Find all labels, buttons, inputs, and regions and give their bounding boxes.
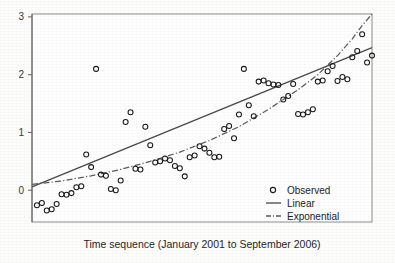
y-tick-label: 1 — [18, 127, 24, 138]
y-tick-label: 3 — [18, 11, 24, 22]
legend-label-observed: Observed — [287, 185, 330, 196]
y-tick-label: 0 — [18, 185, 24, 196]
y-axis-ticks: 0123 — [18, 11, 32, 195]
figure-container: 0123 Observed Linear Exponential Time se… — [0, 0, 395, 263]
x-axis-label: Time sequence (January 2001 to September… — [83, 238, 320, 250]
legend-label-exponential: Exponential — [287, 211, 339, 222]
y-tick-label: 2 — [18, 69, 24, 80]
legend-label-linear: Linear — [287, 198, 315, 209]
scatter-chart: 0123 Observed Linear Exponential Time se… — [0, 0, 395, 263]
